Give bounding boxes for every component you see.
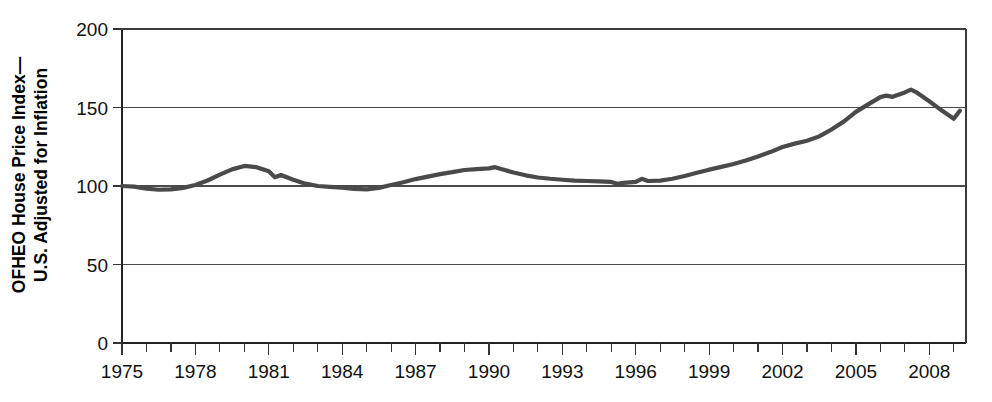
x-tick-label-1993: 1993 xyxy=(541,361,583,382)
x-tick-label-1984: 1984 xyxy=(321,361,364,382)
data-series-group xyxy=(122,90,960,190)
x-axis-tick-labels-group: 1975197819811984198719901993199619992002… xyxy=(101,361,951,382)
x-tick-label-2002: 2002 xyxy=(761,361,803,382)
y-axis-tick-labels-group: 050100150200 xyxy=(76,19,122,354)
x-tick-label-1990: 1990 xyxy=(468,361,510,382)
y-tick-label-100: 100 xyxy=(76,176,108,197)
chart-page: OFHEO House Price Index— U.S. Adjusted f… xyxy=(0,0,992,402)
series-line-0 xyxy=(122,90,960,190)
line-chart: 050100150200 197519781981198419871990199… xyxy=(0,0,992,402)
x-tick-label-2008: 2008 xyxy=(908,361,950,382)
x-tick-label-1996: 1996 xyxy=(615,361,657,382)
x-axis-ticks-group xyxy=(122,343,954,355)
x-tick-label-1987: 1987 xyxy=(394,361,436,382)
x-tick-label-1975: 1975 xyxy=(101,361,143,382)
x-tick-label-1999: 1999 xyxy=(688,361,730,382)
y-tick-label-200: 200 xyxy=(76,19,108,40)
x-tick-label-2005: 2005 xyxy=(835,361,877,382)
y-tick-label-0: 0 xyxy=(97,333,108,354)
y-tick-label-50: 50 xyxy=(87,255,108,276)
x-tick-label-1981: 1981 xyxy=(248,361,290,382)
gridlines-group xyxy=(122,29,966,265)
y-tick-label-150: 150 xyxy=(76,98,108,119)
x-tick-label-1978: 1978 xyxy=(174,361,216,382)
